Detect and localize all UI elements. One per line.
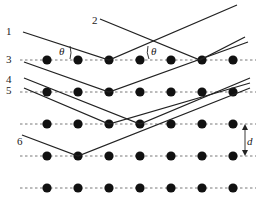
- angle-arc-2: [147, 46, 149, 59]
- arrowhead-down-icon: [242, 150, 248, 156]
- ray-label-1: 1: [6, 25, 12, 37]
- ray-label-6: 6: [17, 135, 23, 147]
- arrowhead-up-icon: [242, 124, 248, 130]
- ray-label-5: 5: [6, 84, 12, 96]
- theta-label-1: θ: [59, 45, 65, 57]
- bragg-diagram: 1 2 3 4 5 6 θ θ d: [0, 0, 265, 204]
- spacing-label: d: [247, 135, 253, 147]
- theta-label-2: θ: [151, 45, 157, 57]
- angle-arc-1: [70, 46, 71, 59]
- ray-label-2: 2: [92, 14, 98, 26]
- ray-label-3: 3: [6, 53, 12, 65]
- diagram-labels: 1 2 3 4 5 6 θ θ d: [0, 0, 265, 204]
